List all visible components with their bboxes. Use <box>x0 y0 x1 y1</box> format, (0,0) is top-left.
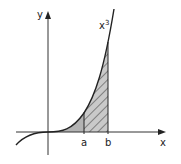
bound-a-label: a <box>81 137 87 148</box>
cubic-integral-diagram: y x3 x a b <box>0 0 181 164</box>
y-axis-arrow-icon <box>45 11 51 19</box>
x-axis-arrow-icon <box>158 129 166 135</box>
y-axis-label: y <box>37 9 43 20</box>
x-axis-label: x <box>160 137 166 148</box>
bound-b-label: b <box>105 137 111 148</box>
solid-shaded-region <box>58 113 84 132</box>
diagram-canvas: y x3 x a b <box>0 0 181 164</box>
curve-label: x3 <box>99 19 109 31</box>
